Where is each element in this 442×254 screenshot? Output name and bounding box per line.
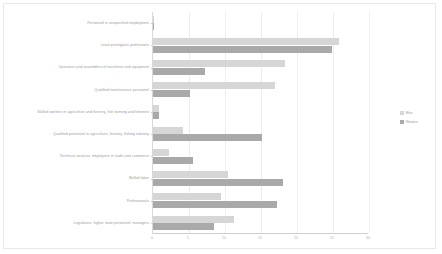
bar-group <box>153 167 368 189</box>
bar-group <box>153 145 368 167</box>
category-tick-mark <box>151 45 153 46</box>
bar-men <box>153 216 234 223</box>
bar-men <box>153 149 169 156</box>
bar-men <box>153 82 275 89</box>
bar-men <box>153 38 339 45</box>
bar-women <box>153 68 205 75</box>
legend-entry-women[interactable]: Women <box>400 119 440 125</box>
bar-men <box>153 105 159 112</box>
value-axis-tick-label: 0 <box>151 236 153 240</box>
bar-women <box>153 46 332 53</box>
category-label: Technical services, employees in trade a… <box>60 154 149 158</box>
category-tick-mark <box>151 179 153 180</box>
bar-men <box>153 193 221 200</box>
legend-label: Men <box>406 111 413 115</box>
bar-group <box>153 34 368 56</box>
category-tick-mark <box>151 134 153 135</box>
bar-men <box>153 60 285 67</box>
bar-women <box>153 112 159 119</box>
category-label: Professionals <box>127 199 149 203</box>
category-label: Personnel in unspecified employment <box>87 21 149 25</box>
bar-men <box>153 127 183 134</box>
value-axis-tick-label: 30 <box>366 236 370 240</box>
category-tick-mark <box>151 223 153 224</box>
legend-entry-men[interactable]: Men <box>400 110 440 116</box>
chart-legend: MenWomen <box>400 110 440 128</box>
bar-group <box>153 79 368 101</box>
category-label: Least prestigious professions <box>101 43 149 47</box>
legend-swatch-icon <box>400 120 404 124</box>
bar-group <box>153 212 368 234</box>
bar-men <box>153 16 154 23</box>
legend-label: Women <box>406 120 418 124</box>
category-label: Qualified personnel in agriculture, fore… <box>53 132 149 136</box>
horizontal-bar-chart: Personnel in unspecified employmentLeast… <box>0 0 442 254</box>
bar-group <box>153 123 368 145</box>
value-axis-tick-label: 25 <box>330 236 334 240</box>
category-label: Operators and assemblers of machines and… <box>59 65 150 69</box>
category-label: Skilled workers in agriculture and fores… <box>37 110 149 114</box>
bar-women <box>153 223 214 230</box>
category-tick-mark <box>151 68 153 69</box>
bar-women <box>153 157 193 164</box>
value-axis-tick-label: 5 <box>187 236 189 240</box>
category-tick-mark <box>151 112 153 113</box>
bar-group <box>153 101 368 123</box>
category-label: Skilled labor <box>129 176 149 180</box>
bar-group <box>153 56 368 78</box>
bar-group <box>153 12 368 34</box>
bar-men <box>153 171 228 178</box>
category-tick-mark <box>151 201 153 202</box>
bar-women <box>153 201 277 208</box>
category-label: Qualified maintenance personnel <box>95 88 149 92</box>
legend-swatch-icon <box>400 111 404 115</box>
bar-women <box>153 134 262 141</box>
value-axis-tick-label: 15 <box>258 236 262 240</box>
bar-group <box>153 190 368 212</box>
value-axis-tick-label: 10 <box>222 236 226 240</box>
bar-women <box>153 23 154 30</box>
category-tick-mark <box>151 156 153 157</box>
category-tick-mark <box>151 23 153 24</box>
category-label: Legislators, higher state personnel, man… <box>73 221 149 225</box>
value-axis-tick-label: 20 <box>294 236 298 240</box>
category-axis-labels: Personnel in unspecified employmentLeast… <box>4 12 152 234</box>
category-tick-mark <box>151 90 153 91</box>
plot-area <box>152 12 368 234</box>
bar-women <box>153 90 190 97</box>
value-axis-tick-labels: 051015202530 <box>152 236 382 248</box>
gridline <box>369 12 370 233</box>
bar-women <box>153 179 283 186</box>
